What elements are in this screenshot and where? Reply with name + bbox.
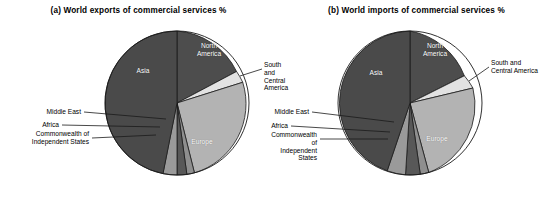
pie-chart-exports: North America Asia Europe (0, 0, 277, 199)
callout-africa: Africa (271, 122, 288, 130)
slice-asia[interactable] (105, 31, 177, 174)
callout-south-central-america: South and Central America (491, 59, 538, 75)
callout-commonwealth-independent-states: Commonwealth of Independent States (32, 130, 89, 146)
figure-world-commercial-services: (a) World exports of commercial services… (0, 0, 555, 199)
leader-south-central-america (469, 67, 489, 81)
pie-slices-imports (338, 31, 482, 175)
pie-svg-exports (0, 0, 277, 199)
pie-chart-imports: North America Asia Europe (278, 0, 555, 199)
chart-panel-imports: (b) World imports of commercial services… (278, 0, 555, 199)
callout-middle-east: Middle East (275, 108, 309, 116)
callout-africa: Africa (42, 121, 59, 129)
chart-panel-exports: (a) World exports of commercial services… (0, 0, 277, 199)
pie-slices-exports (105, 31, 249, 175)
leader-south-central-america (240, 69, 262, 76)
pie-svg-imports (278, 0, 555, 199)
callout-commonwealth-independent-states: Commonwealth of Independent States (271, 131, 317, 162)
callout-middle-east: Middle East (47, 108, 81, 116)
